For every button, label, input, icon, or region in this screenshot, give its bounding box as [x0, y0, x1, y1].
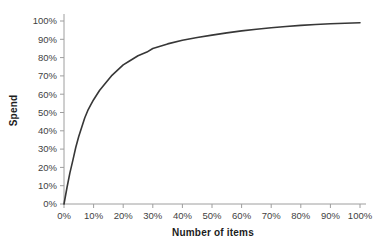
x-axis-title: Number of items: [133, 227, 293, 238]
y-tick-label: 30%: [38, 143, 58, 154]
chart-plot-area: 0%10%20%30%40%50%60%70%80%90%100%0%10%20…: [0, 0, 386, 251]
y-tick-label: 80%: [38, 52, 58, 63]
x-tick-label: 20%: [114, 210, 134, 221]
pareto-spend-chart: 0%10%20%30%40%50%60%70%80%90%100%0%10%20…: [0, 0, 386, 251]
spend-curve: [64, 23, 360, 204]
x-tick-label: 30%: [143, 210, 163, 221]
y-tick-label: 90%: [38, 34, 58, 45]
y-tick-label: 20%: [38, 162, 58, 173]
x-tick-label: 40%: [173, 210, 193, 221]
x-tick-label: 100%: [348, 210, 373, 221]
x-tick-label: 80%: [291, 210, 311, 221]
y-tick-label: 100%: [33, 15, 58, 26]
y-tick-label: 50%: [38, 107, 58, 118]
x-tick-label: 70%: [262, 210, 282, 221]
y-axis-title: Spend: [8, 76, 19, 146]
x-tick-label: 0%: [57, 210, 71, 221]
x-tick-label: 50%: [202, 210, 222, 221]
x-tick-label: 60%: [232, 210, 252, 221]
x-tick-label: 10%: [84, 210, 104, 221]
y-tick-label: 70%: [38, 70, 58, 81]
y-tick-label: 60%: [38, 89, 58, 100]
y-tick-label: 40%: [38, 125, 58, 136]
y-tick-label: 0%: [43, 198, 57, 209]
x-tick-label: 90%: [321, 210, 341, 221]
y-tick-label: 10%: [38, 180, 58, 191]
